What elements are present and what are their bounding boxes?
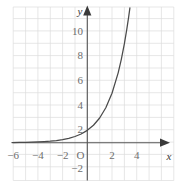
y-tick-label-10: 10 — [66, 26, 83, 37]
y-tick-label-4: 4 — [66, 100, 83, 111]
x-tick-label--6: −6 — [5, 150, 21, 161]
origin-label: O — [77, 150, 85, 161]
y-tick-label-6: 6 — [66, 75, 83, 86]
x-tick-label--2: −2 — [55, 150, 71, 161]
x-axis — [13, 139, 170, 147]
y-tick-label-8: 8 — [66, 50, 83, 61]
x-tick-label--4: −4 — [30, 150, 46, 161]
y-tick-label-2: 2 — [66, 124, 83, 135]
graph-canvas — [0, 0, 181, 188]
y-axis-label: y — [78, 6, 83, 17]
y-tick-label--2: −2 — [64, 163, 83, 174]
x-axis-label: x — [167, 151, 172, 162]
x-tick-label-4: 4 — [129, 150, 145, 161]
x-axis-arrowhead — [160, 139, 170, 147]
x-tick-label-2: 2 — [104, 150, 120, 161]
exponential-function-graph: −6 −4 −2 2 4 10 8 6 4 2 −2 O x y — [0, 0, 181, 188]
